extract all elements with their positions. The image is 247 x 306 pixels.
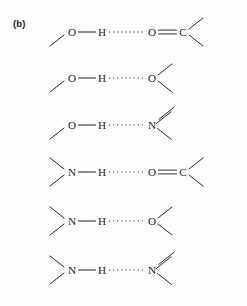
- acceptor-bond-stub-lower: [158, 224, 172, 235]
- acceptor-bond-stub-lower: [158, 129, 172, 140]
- acceptor-bond-stub-lower: [158, 274, 172, 285]
- donor-atom-label: N: [68, 215, 76, 227]
- acceptor-atom-label: O: [148, 166, 156, 178]
- donor-atom-label: O: [68, 72, 76, 84]
- hydrogen-atom-label: H: [98, 215, 106, 227]
- donor-bond-stub-upper: [50, 207, 64, 218]
- hydrogen-atom-label: H: [98, 26, 106, 38]
- hydrogen-bond-diagram-canvas: OHOCOHOOHNNHOCNHONHN: [0, 0, 247, 306]
- hydrogen-atom-label: H: [98, 166, 106, 178]
- acceptor-atom-label: N: [148, 119, 156, 131]
- hydrogen-bond-row: NHOC: [50, 158, 203, 186]
- double-bond-stub-line-2: [156, 257, 171, 269]
- hydrogen-bond-row: OHO: [50, 64, 172, 92]
- donor-bond-stub-lower: [50, 128, 64, 139]
- donor-atom-label: N: [68, 264, 76, 276]
- donor-atom-label: O: [68, 26, 76, 38]
- donor-bond-stub-lower: [50, 175, 64, 186]
- double-bond-stub-line-1: [159, 107, 174, 119]
- tail-atom-label: C: [179, 26, 186, 38]
- hydrogen-atom-label: H: [98, 72, 106, 84]
- acceptor-bond-stub-upper: [158, 207, 172, 218]
- hydrogen-bond-row: OHN: [50, 107, 174, 139]
- double-bond-stub-line-2: [156, 112, 171, 124]
- tail-bond-stub-upper: [189, 158, 203, 169]
- acceptor-bond-stub-upper: [158, 64, 172, 75]
- donor-bond-stub-upper: [50, 158, 64, 169]
- donor-bond-stub-upper: [50, 256, 64, 267]
- double-bond-stub-line-1: [159, 252, 174, 264]
- donor-bond-stub-lower: [50, 273, 64, 284]
- hydrogen-bond-row: OHOC: [50, 18, 203, 46]
- acceptor-atom-label: O: [148, 215, 156, 227]
- donor-atom-label: N: [68, 166, 76, 178]
- hydrogen-bond-figure: (b) OHOCOHOOHNNHOCNHONHN: [0, 0, 247, 306]
- tail-bond-stub-lower: [189, 35, 203, 46]
- donor-bond-stub-lower: [50, 35, 64, 46]
- acceptor-atom-label: O: [148, 72, 156, 84]
- hydrogen-bond-row: NHN: [50, 252, 174, 284]
- donor-atom-label: O: [68, 119, 76, 131]
- acceptor-bond-stub-lower: [158, 81, 172, 92]
- donor-bond-stub-lower: [50, 81, 64, 92]
- hydrogen-atom-label: H: [98, 119, 106, 131]
- tail-bond-stub-upper: [189, 18, 203, 29]
- tail-atom-label: C: [179, 166, 186, 178]
- hydrogen-bond-row: NHO: [50, 207, 172, 235]
- hydrogen-atom-label: H: [98, 264, 106, 276]
- tail-bond-stub-lower: [189, 175, 203, 186]
- acceptor-atom-label: N: [148, 264, 156, 276]
- acceptor-atom-label: O: [148, 26, 156, 38]
- donor-bond-stub-lower: [50, 224, 64, 235]
